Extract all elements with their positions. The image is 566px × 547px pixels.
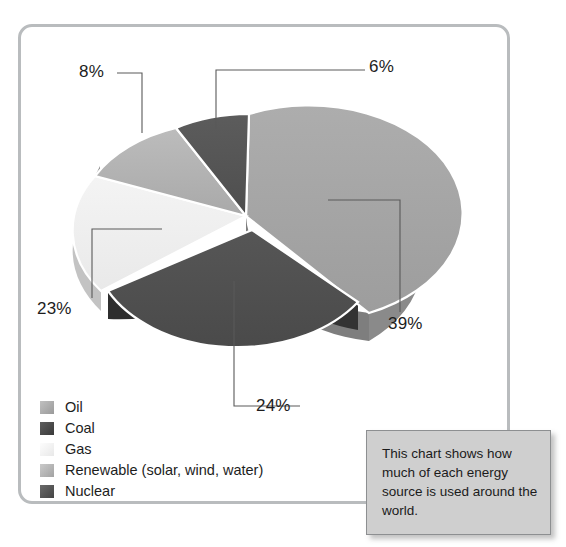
legend-label-oil: Oil [65, 400, 83, 415]
legend-label-coal: Coal [65, 421, 95, 436]
chart-legend: Oil Coal Gas Renewable (solar, wind, wat… [40, 398, 340, 503]
legend-swatch-gas [40, 443, 54, 456]
legend-swatch-nuclear [40, 485, 54, 498]
pie-label-renewable: 8% [79, 62, 104, 82]
legend-item-oil[interactable]: Oil [40, 398, 340, 417]
legend-item-nuclear[interactable]: Nuclear [40, 482, 340, 501]
legend-item-gas[interactable]: Gas [40, 440, 340, 459]
legend-label-nuclear: Nuclear [65, 484, 115, 499]
legend-swatch-coal [40, 422, 54, 435]
callout-note: This chart shows how much of each energy… [366, 430, 551, 535]
callout-note-text: This chart shows how much of each energy… [382, 444, 538, 520]
legend-label-renewable: Renewable (solar, wind, water) [65, 463, 263, 478]
legend-label-gas: Gas [65, 442, 92, 457]
pie-label-oil: 39% [388, 314, 423, 334]
pie-label-gas: 23% [37, 299, 72, 319]
legend-swatch-renewable [40, 464, 54, 477]
legend-item-coal[interactable]: Coal [40, 419, 340, 438]
legend-swatch-oil [40, 401, 54, 414]
legend-item-renewable[interactable]: Renewable (solar, wind, water) [40, 461, 340, 480]
pie-label-nuclear: 6% [369, 57, 394, 77]
